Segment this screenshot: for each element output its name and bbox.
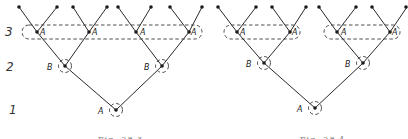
level2-nodes: B B [47, 60, 169, 73]
edges-leaves [218, 7, 407, 32]
level-label-3: 3 [5, 25, 13, 39]
node-label: A [296, 105, 302, 114]
level3-nodes: A A A A [35, 28, 196, 37]
figure-caption: Fig. 28.4 [300, 135, 345, 139]
game-tree-figures: 3 2 1 [0, 0, 408, 139]
figure-caption: Fig. 28.3 [98, 135, 143, 139]
node-label: A [139, 28, 145, 37]
level3-nodes: A A A A [235, 28, 397, 37]
node-label: A [91, 28, 97, 37]
node-label: B [144, 63, 150, 72]
edges-level3 [37, 32, 189, 66]
level2-nodes: B B [246, 57, 370, 70]
node-label: A [340, 28, 346, 37]
node-label: A [97, 107, 103, 116]
edges-leaves [19, 7, 202, 32]
level-label-1: 1 [9, 103, 17, 117]
node-label: A [391, 28, 397, 37]
leaf-nodes [216, 5, 408, 9]
node-label: A [190, 28, 196, 37]
figure-28-3: 3 2 1 [5, 5, 204, 139]
node-label: A [39, 28, 45, 37]
node-label: A [291, 28, 297, 37]
node-label: B [47, 63, 53, 72]
figure-28-4: A A A A B B A Fig. 28.4 [216, 5, 408, 139]
level-label-2: 2 [6, 60, 14, 74]
info-set-box [22, 25, 202, 39]
root-node: A [97, 104, 123, 117]
node-label: B [345, 60, 351, 69]
root-node: A [296, 102, 322, 115]
edges-level2 [65, 66, 162, 110]
node-label: B [246, 60, 252, 69]
edges-level2 [264, 63, 363, 108]
node-label: A [239, 28, 245, 37]
leaf-nodes [17, 5, 204, 9]
